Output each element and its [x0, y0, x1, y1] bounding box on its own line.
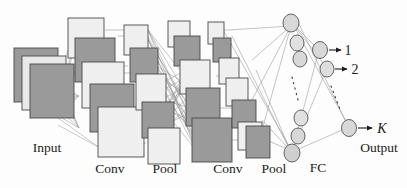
output-label-1: 1	[345, 43, 352, 58]
layer-output	[313, 42, 373, 137]
conv1-map-5	[98, 107, 144, 157]
figure-canvas: 1 2 K Input Conv Pool Conv Pool FC Outpu…	[0, 0, 407, 188]
fc-vertical-ellipsis	[292, 77, 298, 100]
output-label-k: K	[376, 121, 387, 136]
layer-input	[14, 48, 74, 118]
fc-node-1	[283, 14, 299, 32]
output-node-3	[342, 120, 357, 137]
layer-label-output: Output	[360, 140, 398, 155]
layer-label-pool2: Pool	[262, 161, 287, 176]
output-vertical-ellipsis	[331, 86, 341, 112]
fc-node-6	[284, 144, 300, 162]
layer-label-fc: FC	[310, 160, 327, 175]
pool2-map-7	[246, 126, 270, 158]
fc-node-5	[291, 128, 305, 144]
layer-label-input: Input	[33, 140, 62, 155]
output-node-1	[313, 42, 328, 59]
layer-label-conv1: Conv	[95, 161, 125, 176]
conv2-map-5	[192, 118, 232, 162]
layer-label-conv2: Conv	[213, 161, 243, 176]
output-label-2: 2	[352, 62, 359, 77]
cnn-architecture-diagram: 1 2 K Input Conv Pool Conv Pool FC Outpu…	[0, 0, 407, 188]
fc-node-3	[293, 51, 307, 67]
pool1-map-5	[148, 128, 180, 164]
fc-node-2	[290, 35, 304, 51]
fc-node-4	[294, 110, 308, 126]
layer-fc	[283, 14, 308, 162]
input-map-1	[30, 64, 74, 118]
layer-label-pool1: Pool	[153, 161, 178, 176]
output-node-2	[320, 61, 334, 77]
